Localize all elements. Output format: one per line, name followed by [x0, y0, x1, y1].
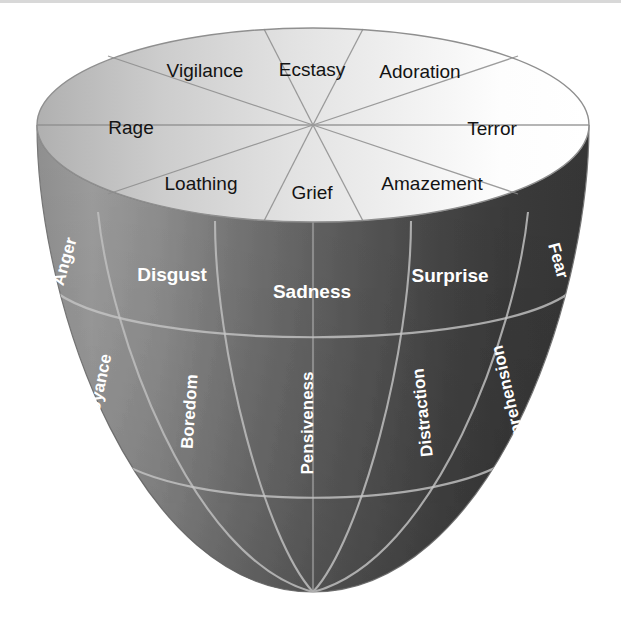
- label-rage: Rage: [108, 117, 153, 138]
- label-vigilance: Vigilance: [167, 60, 244, 81]
- label-surprise: Surprise: [411, 265, 488, 286]
- label-ecstasy: Ecstasy: [279, 59, 346, 80]
- label-terror: Terror: [467, 118, 517, 139]
- label-pensiveness: Pensiveness: [298, 371, 317, 474]
- plutchik-emotion-cone-figure: Ecstasy Adoration Terror Amazement Grief…: [0, 0, 621, 617]
- label-amazement: Amazement: [381, 173, 483, 194]
- label-loathing: Loathing: [165, 173, 238, 194]
- label-grief: Grief: [291, 182, 333, 203]
- label-adoration: Adoration: [379, 61, 460, 82]
- label-sadness: Sadness: [273, 281, 351, 302]
- emotion-cone-svg: Ecstasy Adoration Terror Amazement Grief…: [0, 0, 621, 617]
- label-disgust: Disgust: [137, 264, 207, 285]
